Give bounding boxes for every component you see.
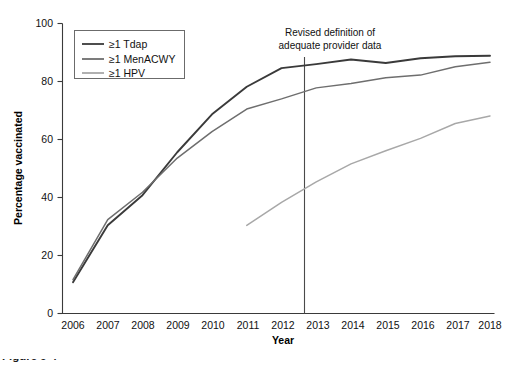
- legend-label-menacwy: ≥1 MenACWY: [109, 53, 175, 65]
- x-tick-label: 2014: [341, 319, 365, 331]
- x-tick-label: 2017: [446, 319, 470, 331]
- x-tick-label: 2007: [96, 319, 120, 331]
- annotation-line-2: adequate provider data: [279, 40, 382, 51]
- series-line-hpv: [247, 116, 490, 225]
- series-group: [73, 56, 490, 282]
- y-tick-labels: 0 20 40 60 80 100: [35, 17, 53, 319]
- series-line-menacwy: [73, 62, 490, 279]
- x-tick-label: 2010: [201, 319, 225, 331]
- y-tick-label: 80: [41, 75, 53, 87]
- x-tick-label: 2008: [131, 319, 155, 331]
- x-tick-label: 2006: [61, 319, 85, 331]
- x-tick-label: 2015: [376, 319, 400, 331]
- y-tick-label: 60: [41, 133, 53, 145]
- x-tick-label: 2013: [306, 319, 330, 331]
- x-tick-label: 2011: [237, 319, 260, 331]
- y-tick-marks: [58, 24, 63, 314]
- annotation-line-1: Revised definition of: [285, 27, 375, 38]
- caption-strip: Figure 9-4: [0, 345, 506, 369]
- series-line-tdap: [73, 56, 490, 282]
- legend-label-tdap: ≥1 Tdap: [109, 38, 147, 50]
- x-axis-title: Year: [272, 334, 294, 345]
- chart-canvas: 0 20 40 60 80 100 Percentage vaccinated …: [0, 0, 506, 345]
- x-tick-label: 2018: [478, 319, 502, 331]
- line-chart: 0 20 40 60 80 100 Percentage vaccinated …: [0, 0, 506, 345]
- legend-label-hpv: ≥1 HPV: [109, 67, 145, 79]
- y-tick-label: 20: [41, 249, 53, 261]
- y-tick-label: 40: [41, 191, 53, 203]
- figure-caption: Figure 9-4: [2, 350, 57, 362]
- x-tick-label: 2012: [271, 319, 295, 331]
- y-tick-label: 100: [35, 17, 53, 29]
- x-tick-label: 2009: [166, 319, 190, 331]
- y-tick-label: 0: [47, 307, 53, 319]
- x-tick-labels: 2006 2007 2008 2009 2010 2011 2012 2013 …: [61, 319, 502, 331]
- figure-root: 0 20 40 60 80 100 Percentage vaccinated …: [0, 0, 506, 369]
- y-axis-title: Percentage vaccinated: [12, 111, 24, 225]
- x-tick-label: 2016: [411, 319, 435, 331]
- legend: ≥1 Tdap ≥1 MenACWY ≥1 HPV: [75, 31, 185, 80]
